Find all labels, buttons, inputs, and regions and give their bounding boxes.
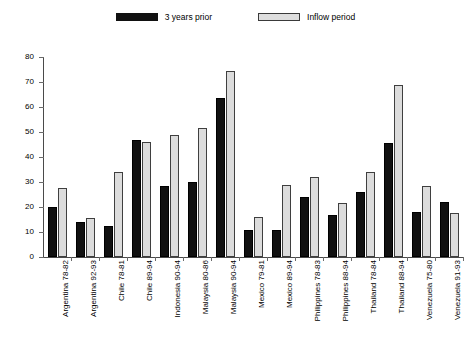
bar-group [183, 57, 211, 257]
bar-inflow [86, 218, 95, 257]
x-axis-category-label: Philippines 78-83 [313, 260, 322, 321]
y-axis-tick-label: 60 [12, 102, 34, 111]
bar-prior [300, 197, 309, 257]
bar-prior [412, 212, 421, 257]
bar-prior [244, 230, 253, 258]
bar-group [379, 57, 407, 257]
bar-group [351, 57, 379, 257]
legend-entry-prior: 3 years prior [116, 12, 212, 22]
bar-prior [76, 222, 85, 257]
bar-group [127, 57, 155, 257]
plot-area: 80706050403020100 [43, 57, 463, 257]
bar-group [43, 57, 71, 257]
legend-entry-inflow: Inflow period [258, 12, 355, 22]
x-axis-category-label: Malaysia 80-86 [201, 260, 210, 314]
bar-inflow [58, 188, 67, 257]
bar-inflow [338, 203, 347, 257]
bar-group [295, 57, 323, 257]
bar-inflow [450, 213, 459, 257]
x-axis-category-label: Chile 78-81 [117, 260, 126, 301]
bar-inflow [282, 185, 291, 258]
bar-prior [48, 207, 57, 257]
bar-inflow [170, 135, 179, 258]
bar-group [211, 57, 239, 257]
bar-prior [440, 202, 449, 257]
bar-prior [104, 226, 113, 257]
y-axis-tick-label: 70 [12, 77, 34, 86]
bar-inflow [394, 85, 403, 258]
y-axis-tick: 0 [39, 257, 44, 258]
bar-prior [384, 143, 393, 257]
y-axis-tick-label: 30 [12, 177, 34, 186]
bar-prior [160, 186, 169, 257]
bar-inflow [422, 186, 431, 257]
y-axis-tick-label: 80 [12, 52, 34, 61]
x-axis-category-labels: Argentina 78-82Argentina 92-93Chile 78-8… [43, 260, 463, 346]
y-axis-tick-label: 40 [12, 152, 34, 161]
bar-inflow [310, 177, 319, 257]
legend-label-prior: 3 years prior [165, 12, 212, 22]
bar-groups [43, 57, 463, 257]
bar-inflow [366, 172, 375, 257]
x-axis-category-label: Thailand 78-84 [369, 260, 378, 313]
y-axis-tick-label: 10 [12, 227, 34, 236]
x-axis-category-label: Mexico 79-81 [257, 260, 266, 308]
x-axis-line [43, 257, 463, 258]
bar-group [407, 57, 435, 257]
x-axis-category-label: Malaysia 90-94 [229, 260, 238, 314]
bar-group [435, 57, 463, 257]
bar-group [71, 57, 99, 257]
x-axis-category-label: Venezuela 91-93 [453, 260, 462, 320]
bar-group [155, 57, 183, 257]
y-axis-tick-label: 20 [12, 202, 34, 211]
legend-swatch-icon-inflow [258, 13, 300, 21]
x-axis-category-label: Chile 89-94 [145, 260, 154, 301]
bar-group [239, 57, 267, 257]
x-axis-category-label: Argentina 92-93 [89, 260, 98, 317]
bar-inflow [142, 142, 151, 257]
bar-group [267, 57, 295, 257]
bar-inflow [114, 172, 123, 257]
legend-label-inflow: Inflow period [307, 12, 355, 22]
bar-prior [216, 98, 225, 257]
x-axis-tick [463, 257, 464, 261]
x-axis-category-label: Thailand 88-94 [397, 260, 406, 313]
legend-swatch-icon-prior [116, 13, 158, 21]
bar-prior [132, 140, 141, 258]
x-axis-category-label: Venezuela 75-80 [425, 260, 434, 320]
chart-legend: 3 years prior Inflow period [0, 12, 471, 22]
y-axis-tick-label: 0 [12, 252, 34, 261]
bar-inflow [226, 71, 235, 257]
bar-prior [328, 215, 337, 258]
bar-group [323, 57, 351, 257]
bar-inflow [198, 128, 207, 257]
x-axis-category-label: Philippines 88-94 [341, 260, 350, 321]
x-axis-category-label: Argentina 78-82 [61, 260, 70, 317]
y-axis-tick-label: 50 [12, 127, 34, 136]
bar-inflow [254, 217, 263, 257]
bar-prior [272, 230, 281, 258]
bar-prior [356, 192, 365, 257]
bar-prior [188, 182, 197, 257]
x-axis-category-label: Indonesia 90-94 [173, 260, 182, 317]
bar-chart: 3 years prior Inflow period 807060504030… [0, 0, 471, 346]
bar-group [99, 57, 127, 257]
x-axis-category-label: Mexico 89-94 [285, 260, 294, 308]
